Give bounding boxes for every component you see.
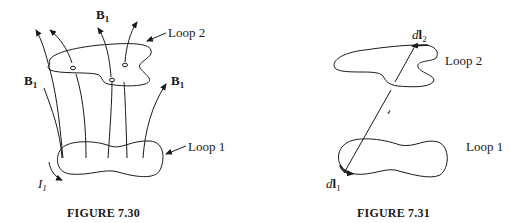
current-label: I1 (38, 177, 47, 193)
dl2-label: dl2 (412, 28, 427, 44)
figures-drawing (0, 0, 526, 223)
field-line-center-right (124, 82, 127, 158)
separation-label: 𝓇 (386, 105, 391, 116)
loop1-label: Loop 1 (188, 140, 225, 153)
b1-right-label: B1 (171, 74, 184, 90)
loop1-curve (57, 141, 163, 177)
b1-top-label: B1 (96, 8, 109, 24)
separation-line (344, 46, 415, 173)
field-line-center-top (98, 28, 111, 77)
field-line-left-top (50, 30, 72, 63)
loop2-label-b: Loop 2 (445, 54, 482, 67)
loop1-curve-b (338, 139, 447, 177)
field-line-right-top (125, 22, 137, 62)
field-line-left (76, 74, 86, 158)
b1-left-label: B1 (24, 74, 37, 90)
dl2-arrow (412, 45, 428, 46)
field-line-far-left (36, 30, 63, 158)
loop1-label-b: Loop 1 (466, 140, 503, 153)
flux-hole-3 (123, 63, 128, 67)
flux-hole-2 (110, 78, 115, 82)
loop2-curve (48, 44, 151, 86)
loop2-pointer (147, 33, 166, 41)
dl1-label: dl1 (326, 177, 341, 193)
figure-7-30-drawing (36, 22, 186, 180)
loop2-label: Loop 2 (168, 26, 205, 39)
flux-hole-1 (71, 66, 76, 70)
current-arrow (49, 162, 62, 180)
figure-7-30-caption: FIGURE 7.30 (67, 206, 140, 221)
loop1-pointer (166, 146, 186, 154)
loop2-curve-b (334, 45, 437, 87)
field-line-far-right (143, 84, 166, 158)
figure-7-31-caption: FIGURE 7.31 (357, 206, 430, 221)
